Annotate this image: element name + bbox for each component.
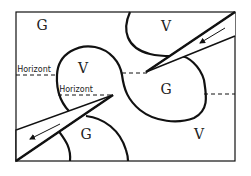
boundary-curve-top — [126, 12, 180, 56]
boundary-curve-central — [52, 46, 206, 161]
fold-diagram: G V V G G V Horizont Horizont — [0, 0, 251, 176]
region-label-v: V — [77, 60, 89, 76]
horizon-label-lower: Horizont — [59, 85, 93, 94]
region-label-v: V — [193, 126, 205, 142]
region-label-g: G — [36, 17, 47, 33]
region-label-v: V — [160, 18, 172, 34]
region-label-g: G — [160, 81, 171, 97]
boundary-curve-bottom — [86, 116, 128, 161]
region-label-g: G — [80, 126, 91, 142]
horizon-label-upper: Horizont — [17, 65, 51, 74]
